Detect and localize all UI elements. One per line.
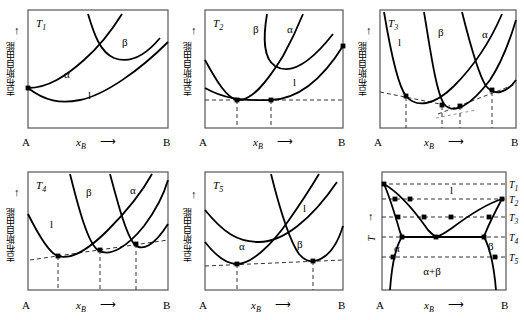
panel-T3: T3 l β α A B xB ⟶ ↑ 吉布斯自由能 xyxy=(350,0,524,155)
tangent-point xyxy=(490,88,495,93)
phase-point xyxy=(482,235,487,240)
x-axis-left-end: A xyxy=(199,299,207,311)
x-axis-right-end: B xyxy=(338,299,345,311)
panel-T4: T4 β α l A B xB ⟶ ↑ 吉布斯自由能 xyxy=(0,162,180,320)
tangent-point xyxy=(235,262,240,267)
panel-label-T2: T2 xyxy=(213,17,223,32)
panel-T1: T1 α β l A B xB ⟶ ↑ 吉布斯自由能 xyxy=(0,0,180,155)
x-axis-label: xB xyxy=(75,299,86,314)
x-axis-label: xB xyxy=(75,136,86,151)
panel-label-T4: T4 xyxy=(36,179,46,194)
curve-beta xyxy=(70,174,168,253)
y-axis-arrow: ↑ xyxy=(368,210,374,222)
label-beta: β xyxy=(438,26,444,38)
x-axis-arrow: ⟶ xyxy=(448,135,464,147)
temp-label-T4: T4 xyxy=(509,232,519,246)
x-axis-right-end: B xyxy=(163,299,170,311)
tangent-point xyxy=(458,104,463,109)
label-beta: β xyxy=(86,186,92,198)
label-liquid: l xyxy=(303,202,306,214)
label-alpha: α xyxy=(287,23,293,35)
phase-point xyxy=(408,197,413,202)
phase-point xyxy=(391,255,396,260)
region-beta: β xyxy=(488,240,494,252)
label-alpha: α xyxy=(482,28,488,40)
label-alpha: α xyxy=(239,240,245,252)
tangent-point xyxy=(235,98,240,103)
panel-phase-diagram: l α β α+β T1 T2 T3 T4 T5 A B xB xyxy=(350,162,524,320)
label-liquid: l xyxy=(293,76,296,88)
plot-frame xyxy=(28,10,168,128)
y-axis-arrow: ↑ xyxy=(191,188,197,200)
panel-label-T5: T5 xyxy=(213,179,223,194)
phase-point xyxy=(500,197,505,202)
panel-label-T1: T1 xyxy=(36,17,46,32)
label-liquid: l xyxy=(50,218,53,230)
x-axis-left-end: A xyxy=(374,136,382,148)
region-alpha: α xyxy=(394,242,400,254)
panel-T5: T5 α l β A B xB ⟶ ↑ 吉布斯自由能 xyxy=(175,162,355,320)
y-axis-arrow: ↑ xyxy=(14,186,20,198)
phase-point xyxy=(434,235,439,240)
label-alpha: α xyxy=(64,68,70,80)
temp-label-T5: T5 xyxy=(509,252,519,266)
phase-point xyxy=(487,215,492,220)
x-axis-label: xB xyxy=(252,136,263,151)
x-axis-label: xB xyxy=(423,299,434,314)
y-axis-label: 吉布斯自由能 xyxy=(6,42,15,96)
x-axis-arrow: ⟶ xyxy=(448,298,464,310)
y-axis-label: 吉布斯自由能 xyxy=(183,42,192,96)
x-axis-left-end: A xyxy=(22,136,30,148)
temp-label-T2: T2 xyxy=(509,194,519,208)
liquidus-left xyxy=(384,184,436,237)
tangent-point xyxy=(269,98,274,103)
y-axis-arrow: ↑ xyxy=(366,24,372,36)
x-axis-right-end: B xyxy=(338,136,345,148)
label-beta: β xyxy=(253,23,259,35)
tangent-point xyxy=(98,248,103,253)
tangent-point xyxy=(56,254,61,259)
phase-point xyxy=(449,215,454,220)
phase-point xyxy=(493,255,498,260)
figure-root: T1 α β l A B xB ⟶ ↑ 吉布斯自由能 xyxy=(0,0,524,320)
region-alpha-beta: α+β xyxy=(423,265,441,277)
x-axis-left-end: A xyxy=(22,299,30,311)
endpoint-B xyxy=(341,44,346,49)
solidus-left xyxy=(384,184,402,237)
phase-point xyxy=(400,235,405,240)
phase-point xyxy=(393,197,398,202)
x-axis-left-end: A xyxy=(199,136,207,148)
x-axis-left-end: A xyxy=(376,299,384,311)
panel-T2: T2 β α l A B xB ⟶ ↑ 吉布斯自由能 xyxy=(175,0,355,155)
label-liquid: l xyxy=(88,89,91,101)
phase-point xyxy=(396,215,401,220)
phase-point xyxy=(382,182,387,187)
label-alpha: α xyxy=(130,184,136,196)
curve-alpha xyxy=(110,174,168,247)
x-axis-label: xB xyxy=(250,299,261,314)
label-beta: β xyxy=(122,36,128,48)
temp-label-T3: T3 xyxy=(509,212,519,226)
x-axis-arrow: ⟶ xyxy=(100,298,116,310)
label-liquid: l xyxy=(398,36,401,48)
x-axis-right-end: B xyxy=(501,299,508,311)
y-axis-arrow: ↑ xyxy=(191,24,197,36)
plot-frame xyxy=(28,172,168,290)
y-axis-label: 吉布斯自由能 xyxy=(183,208,192,262)
tangent-point xyxy=(404,94,409,99)
x-axis-right-end: B xyxy=(511,136,518,148)
region-liquid: l xyxy=(450,184,453,196)
x-axis-label: xB xyxy=(423,136,434,151)
common-tangent-right xyxy=(438,84,516,114)
panel-label-T3: T3 xyxy=(388,17,398,32)
temperature-axis-label: T xyxy=(366,236,377,242)
tangent-point xyxy=(26,86,31,91)
curve-liquid xyxy=(205,182,337,242)
x-axis-arrow: ⟶ xyxy=(277,135,293,147)
tangent-point xyxy=(134,242,139,247)
label-beta: β xyxy=(297,238,303,250)
y-axis-arrow: ↑ xyxy=(14,24,20,36)
tangent-point xyxy=(440,103,445,108)
temp-label-T1: T1 xyxy=(509,179,518,193)
x-axis-arrow: ⟶ xyxy=(100,135,116,147)
